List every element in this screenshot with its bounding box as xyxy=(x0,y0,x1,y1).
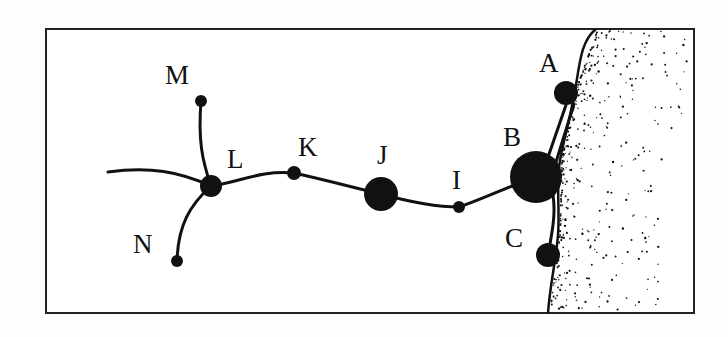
sand-stipple xyxy=(614,48,616,50)
sand-stipple xyxy=(576,258,578,260)
sand-stipple xyxy=(607,82,609,84)
sand-stipple xyxy=(645,216,646,217)
sand-stipple xyxy=(559,241,561,243)
sand-stipple xyxy=(589,95,591,97)
sand-stipple xyxy=(566,232,568,234)
sand-stipple xyxy=(608,96,609,97)
node-a xyxy=(554,81,578,105)
sand-stipple xyxy=(625,199,627,201)
sand-stipple xyxy=(632,78,633,79)
sand-stipple xyxy=(582,70,583,71)
sand-stipple xyxy=(649,151,650,152)
node-j xyxy=(364,177,398,211)
sand-stipple xyxy=(583,93,585,95)
sand-stipple xyxy=(596,62,598,64)
sand-stipple xyxy=(564,219,566,221)
sand-stipple xyxy=(617,308,619,310)
sand-stipple xyxy=(560,196,561,197)
sand-stipple xyxy=(647,289,648,290)
sand-stipple xyxy=(560,218,561,219)
sand-stipple xyxy=(595,34,597,36)
sand-stipple xyxy=(643,170,645,172)
sand-stipple xyxy=(555,298,557,300)
sand-stipple xyxy=(648,236,649,237)
sand-stipple xyxy=(597,45,599,47)
sand-stipple xyxy=(596,46,598,48)
sand-stipple xyxy=(643,33,645,35)
sand-stipple xyxy=(601,50,602,51)
sand-stipple xyxy=(567,139,569,141)
sand-stipple xyxy=(562,247,564,249)
sand-stipple xyxy=(576,178,577,179)
sand-stipple xyxy=(604,135,606,137)
sand-stipple xyxy=(596,117,597,118)
sand-stipple xyxy=(607,122,609,124)
sand-stipple xyxy=(559,236,561,238)
sand-stipple xyxy=(632,55,634,57)
sand-stipple xyxy=(603,56,604,57)
sand-stipple xyxy=(589,68,591,70)
sand-stipple xyxy=(650,190,652,192)
node-i xyxy=(453,201,465,213)
sand-stipple xyxy=(591,291,593,293)
sand-stipple xyxy=(605,209,606,210)
sand-stipple xyxy=(655,106,656,107)
sand-stipple xyxy=(577,146,579,148)
sand-stipple xyxy=(683,71,684,72)
sand-stipple xyxy=(587,230,588,231)
sand-stipple xyxy=(643,150,645,152)
sand-stipple xyxy=(560,231,561,232)
sand-stipple xyxy=(563,160,565,162)
sand-stipple xyxy=(621,165,622,166)
sand-stipple xyxy=(590,127,592,129)
sand-stipple xyxy=(574,292,576,294)
sand-stipple xyxy=(651,63,653,65)
sand-stipple xyxy=(566,272,568,274)
sand-stipple xyxy=(623,48,625,50)
sand-stipple xyxy=(595,237,596,238)
sand-stipple xyxy=(568,153,570,155)
sand-stipple xyxy=(581,233,583,235)
sand-stipple xyxy=(591,186,593,188)
sand-stipple xyxy=(654,224,656,226)
node-b xyxy=(510,151,562,203)
sand-stipple xyxy=(582,72,584,74)
sand-stipple xyxy=(591,55,593,57)
sand-stipple xyxy=(604,100,605,101)
sand-stipple xyxy=(571,156,573,158)
sand-stipple xyxy=(601,117,603,119)
sand-stipple xyxy=(608,295,610,297)
sand-stipple xyxy=(594,239,596,241)
sand-stipple xyxy=(606,37,608,39)
sand-stipple xyxy=(575,238,577,240)
sand-stipple xyxy=(581,74,583,76)
sand-stipple xyxy=(590,49,592,51)
sand-stipple xyxy=(555,279,557,281)
sand-stipple xyxy=(596,31,598,33)
sand-stipple xyxy=(657,281,659,283)
sand-stipple xyxy=(587,97,588,98)
sand-stipple xyxy=(605,34,607,36)
sand-stipple xyxy=(606,300,608,302)
sand-stipple xyxy=(578,143,580,145)
sand-stipple xyxy=(627,113,629,115)
sand-stipple xyxy=(681,113,682,114)
sand-stipple xyxy=(559,274,561,276)
sand-stipple xyxy=(670,127,672,129)
sand-stipple xyxy=(598,37,600,39)
sand-stipple xyxy=(561,163,563,165)
sand-stipple xyxy=(598,61,600,63)
sand-stipple xyxy=(572,203,574,205)
sand-stipple xyxy=(642,147,644,149)
sand-stipple xyxy=(593,55,594,56)
sand-stipple xyxy=(575,296,576,297)
sand-stipple xyxy=(568,127,570,129)
sand-stipple xyxy=(588,231,590,233)
sand-stipple xyxy=(569,270,571,272)
node-k xyxy=(287,166,301,180)
sand-stipple xyxy=(557,266,559,268)
sand-stipple xyxy=(605,254,607,256)
sand-stipple xyxy=(568,255,570,257)
sand-stipple xyxy=(565,278,566,279)
sand-stipple xyxy=(586,277,588,279)
